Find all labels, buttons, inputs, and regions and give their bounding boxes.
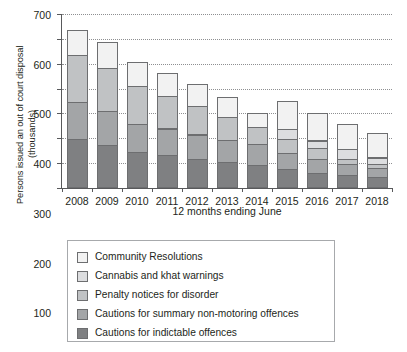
bar[interactable] <box>307 113 328 188</box>
bar-segment[interactable] <box>307 173 328 188</box>
bar-segment[interactable] <box>127 152 148 188</box>
bar-segment[interactable] <box>307 159 328 174</box>
bar-segment[interactable] <box>187 84 208 107</box>
bar[interactable] <box>337 124 358 188</box>
legend-swatch <box>77 252 88 263</box>
bar-segment[interactable] <box>307 148 328 159</box>
y-axis-tick: 700 <box>57 14 61 15</box>
x-axis-tick <box>122 188 123 192</box>
plot-area: 0100200300400500600700 20082009201020112… <box>62 14 392 188</box>
bar-segment[interactable] <box>67 102 88 140</box>
x-axis-tick <box>212 188 213 192</box>
bar-segment[interactable] <box>157 96 178 129</box>
y-axis-tick: 600 <box>57 39 61 40</box>
y-axis-tick: 100 <box>57 163 61 164</box>
x-axis-line <box>61 188 393 189</box>
bar[interactable] <box>127 62 148 188</box>
bar[interactable] <box>97 42 118 188</box>
bar-group <box>62 14 392 188</box>
legend-item[interactable]: Cannabis and khat warnings <box>77 267 334 285</box>
y-axis-tick-label: 100 <box>33 307 51 319</box>
bar-segment[interactable] <box>187 106 208 135</box>
bar-segment[interactable] <box>337 175 358 188</box>
y-axis-tick-label: 600 <box>33 59 51 71</box>
x-axis-tick <box>152 188 153 192</box>
legend-swatch <box>77 328 88 339</box>
bar-segment[interactable] <box>217 162 238 188</box>
bar-segment[interactable] <box>157 73 178 97</box>
y-axis-tick-label: 300 <box>33 208 51 220</box>
x-axis-tick <box>302 188 303 192</box>
y-axis-tick-label: 400 <box>33 158 51 170</box>
bar-segment[interactable] <box>67 30 88 56</box>
bar-segment[interactable] <box>217 140 238 162</box>
y-axis-title-main: Persons issued an out of court disposal <box>15 46 25 204</box>
bar-segment[interactable] <box>127 62 148 87</box>
bar-segment[interactable] <box>187 135 208 160</box>
legend-item[interactable]: Community Resolutions <box>77 248 334 266</box>
bar-segment[interactable] <box>247 113 268 128</box>
x-axis-title: 12 months ending June <box>62 205 392 217</box>
bar[interactable] <box>67 30 88 189</box>
legend-item-label: Community Resolutions <box>95 252 203 262</box>
x-axis-tick <box>62 188 63 192</box>
legend-item-label: Penalty notices for disorder <box>95 290 218 300</box>
bar-segment[interactable] <box>97 111 118 146</box>
legend-item[interactable]: Cautions for summary non-motoring offenc… <box>77 305 334 323</box>
legend-item-label: Cannabis and khat warnings <box>95 271 224 281</box>
bar-segment[interactable] <box>97 68 118 112</box>
bar-segment[interactable] <box>157 155 178 188</box>
y-axis-tick: 500 <box>57 64 61 65</box>
bar[interactable] <box>217 97 238 188</box>
legend: Community ResolutionsCannabis and khat w… <box>67 240 335 342</box>
legend-item-label: Cautions for summary non-motoring offenc… <box>95 309 299 319</box>
bar-segment[interactable] <box>307 113 328 141</box>
bar-segment[interactable] <box>247 127 268 145</box>
bar-segment[interactable] <box>277 153 298 170</box>
bar-segment[interactable] <box>277 101 298 130</box>
legend-item-label: Cautions for indictable offences <box>95 328 237 338</box>
x-axis-tick <box>392 188 393 192</box>
bar-segment[interactable] <box>97 145 118 188</box>
bar[interactable] <box>247 113 268 188</box>
legend-swatch <box>77 290 88 301</box>
bar[interactable] <box>157 73 178 188</box>
x-axis-tick <box>92 188 93 192</box>
x-axis-tick <box>272 188 273 192</box>
bar-segment[interactable] <box>247 165 268 188</box>
bar[interactable] <box>277 101 298 188</box>
legend-item[interactable]: Penalty notices for disorder <box>77 286 334 304</box>
bar-segment[interactable] <box>187 159 208 188</box>
legend-swatch <box>77 309 88 320</box>
bar-segment[interactable] <box>67 139 88 188</box>
y-axis-tick: 400 <box>57 89 61 90</box>
x-axis-tick <box>242 188 243 192</box>
bar[interactable] <box>367 133 388 188</box>
x-axis-tick <box>332 188 333 192</box>
bar-segment[interactable] <box>337 124 358 150</box>
bar-segment[interactable] <box>277 169 298 188</box>
bar-segment[interactable] <box>277 139 298 153</box>
bar[interactable] <box>187 84 208 188</box>
bar-segment[interactable] <box>367 177 388 188</box>
bar-segment[interactable] <box>67 55 88 103</box>
bar-segment[interactable] <box>217 117 238 141</box>
legend-item[interactable]: Cautions for indictable offences <box>77 324 334 342</box>
bar-segment[interactable] <box>217 97 238 118</box>
bar-segment[interactable] <box>337 164 358 175</box>
bar-segment[interactable] <box>97 42 118 69</box>
y-axis-tick: 0 <box>57 188 61 189</box>
bar-segment[interactable] <box>247 144 268 165</box>
y-axis-tick-label: 200 <box>33 258 51 270</box>
x-axis-tick <box>362 188 363 192</box>
bar-segment[interactable] <box>127 124 148 153</box>
bar-segment[interactable] <box>157 129 178 156</box>
bar-segment[interactable] <box>367 133 388 158</box>
y-axis-tick-label: 700 <box>33 9 51 21</box>
stacked-bar-chart: Persons issued an out of court disposal … <box>0 0 407 352</box>
legend-swatch <box>77 271 88 282</box>
bar-segment[interactable] <box>127 86 148 124</box>
y-axis-tick: 200 <box>57 138 61 139</box>
y-axis-tick-label: 500 <box>33 108 51 120</box>
x-axis-tick <box>182 188 183 192</box>
